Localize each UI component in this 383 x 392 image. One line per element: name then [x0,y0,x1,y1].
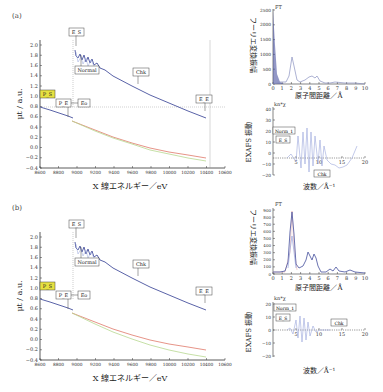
main-chart: 2.01.81.61.41.21.00.80.60.40.20.0−0.2−0.… [26,232,232,367]
y-axis-label: μt / a.u. [15,88,24,119]
tick-label: 40 [266,107,272,112]
panel-a: (a) 2.01.81.61.41.21.00.80.60.40.20.0−0.… [0,0,383,196]
tick-label: 1.4 [30,264,38,270]
tick-label: 0.4 [30,316,38,322]
tick-label: 1.0 [30,285,38,291]
tick-label: 9000 [72,362,83,367]
tick-label: 1500 [260,37,271,42]
tick-label: 500 [263,236,271,241]
ft-x-ticks: 012345678910 [271,272,368,281]
tick-label: 10600 [218,170,232,175]
x-axis-label: X 線エネルギー／eV [93,181,168,191]
tick-label: 6 [327,85,330,91]
tick-label: 10200 [181,170,195,175]
tick-label: 20 [362,331,368,337]
tick-label: 9400 [109,170,120,175]
svg-text:Chk: Chk [136,69,147,75]
svg-text:Eo: Eo [81,100,88,106]
tick-label: 1.2 [30,275,38,281]
tick-label: 1.6 [30,62,38,68]
tick-label: 9 [354,85,357,91]
tick-label: 0 [271,275,274,281]
tick-label: 10 [362,85,368,91]
tick-label: 5 [317,275,320,281]
svg-text:Chk: Chk [334,321,343,326]
x-tick-labels: 8600880090009200940096009800100001020010… [35,166,233,175]
ft-title: FT [275,4,282,10]
tick-label: 1.0 [30,93,38,99]
svg-text:Chk: Chk [136,261,147,267]
tick-label: 2500 [260,8,271,13]
svg-text:P_E: P_E [59,292,69,299]
tick-label: 100 [263,264,271,269]
x-tick-labels: 8600880090009200940096009800100001020010… [35,358,233,367]
svg-text:Normal: Normal [77,259,96,265]
svg-text:Chk: Chk [317,172,326,177]
tick-label: 8 [345,275,348,281]
panel-a-svg: 2.01.81.61.41.21.00.80.60.40.20.0−0.2−0.… [0,0,383,196]
tick-label: 9200 [90,362,101,367]
svg-text:P_S: P_S [43,91,53,98]
tick-label: 9600 [127,362,138,367]
tick-label: 1000 [260,52,271,57]
tick-label: 0.6 [30,305,38,311]
exafs-title: kn*χ [274,295,286,302]
panel-b: (b) 2.01.81.61.41.21.00.80.60.40.20.0−0.… [0,192,383,388]
tick-label: 9600 [127,170,138,175]
tick-label: 1 [281,85,284,91]
tick-label: 2 [290,275,293,281]
tick-label: 0 [271,85,274,91]
tick-label: 9400 [109,362,120,367]
tick-label: 30 [266,118,272,123]
tick-label: 5 [317,85,320,91]
tick-label: 8800 [53,170,64,175]
tick-label: 0.0 [30,336,38,342]
tick-label: 10 [266,140,272,145]
main-chart: 2.01.81.61.41.21.00.80.60.40.20.0−0.2−0.… [26,40,232,175]
exafs-chart: EXAFS 振動 kn*χ 403020100−10−20 5101520 No… [244,101,368,191]
tick-label: 8600 [35,362,46,367]
ft-y-label: フーリエ変換振幅 [249,209,258,265]
tick-label: −10 [262,162,271,167]
tick-label: 10400 [200,170,214,175]
tick-label: 4 [308,85,311,91]
tick-label: 15 [339,159,345,165]
tick-label: 1.4 [30,72,38,78]
tick-label: 7 [336,85,339,91]
tick-label: 9 [354,275,357,281]
tick-label: 0.2 [30,134,38,140]
tick-label: 1.8 [30,52,38,58]
svg-text:P_E: P_E [59,100,69,107]
svg-text:E_S: E_S [72,221,82,228]
tick-label: 3 [299,275,302,281]
ft-chart: フーリエ変換振幅 FT 9008007006005004003002001000… [249,201,368,292]
exafs-x-label: 波数／Å⁻¹ [303,366,336,375]
tick-label: 9000 [72,170,83,175]
svg-text:E_E: E_E [199,288,209,295]
tick-label: −0.2 [26,154,38,160]
tick-label: 7 [336,275,339,281]
tick-label: 0.0 [30,144,38,150]
ft-chart: フーリエ変換振幅 FT 25002000150010005000 0123456… [249,4,368,100]
tick-label: 1 [281,275,284,281]
tick-label: 2 [290,85,293,91]
y-tick-labels: 2.01.81.61.41.21.00.80.60.40.20.0−0.2−0.… [26,42,42,171]
tick-label: 2.0 [30,42,38,48]
tick-label: 900 [263,208,271,213]
tick-label: 0.6 [30,113,38,119]
tick-label: 600 [263,229,271,234]
panel-label: (a) [12,12,22,20]
tick-label: 1.8 [30,244,38,250]
tick-label: 1.2 [30,83,38,89]
exafs-y-label: EXAFS 振動 [244,312,253,353]
markers: P_S P_E Eo E_S Normal Chk E_E [40,220,212,309]
tick-label: −10 [262,341,271,346]
tick-label: 6 [327,275,330,281]
tick-label: 10000 [163,362,177,367]
tick-label: 2.0 [30,234,38,240]
tick-label: 800 [263,215,271,220]
svg-text:Normal: Normal [77,67,96,73]
svg-text:E_S: E_S [72,29,82,36]
tick-label: 0.2 [30,326,38,332]
tick-label: 8 [345,85,348,91]
